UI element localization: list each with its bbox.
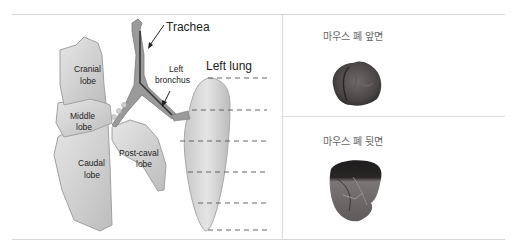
- caption-back: 마우스 폐 뒷면: [323, 133, 383, 148]
- caption-front: 마우스 폐 앞면: [323, 28, 383, 43]
- label-trachea: Trachea: [166, 20, 210, 34]
- label-left-bronchus-1: Left: [169, 64, 184, 74]
- label-caudal-2: lobe: [84, 170, 100, 180]
- photo-cell-front: 마우스 폐 앞면: [283, 15, 505, 116]
- label-middle-1: Middle: [70, 111, 95, 121]
- label-postcaval-1: Post-caval: [119, 148, 159, 158]
- label-middle-2: lobe: [76, 122, 92, 132]
- mouse-lung-back-photo: [323, 155, 387, 227]
- mouse-lung-front-photo: [323, 55, 387, 113]
- label-left-bronchus-2: bronchus: [155, 75, 190, 85]
- left-lung: [184, 78, 230, 231]
- comparison-table: Trachea Left lung Left bronchus Cranial …: [12, 14, 505, 240]
- lung-anatomy-diagram: Trachea Left lung Left bronchus Cranial …: [12, 15, 282, 239]
- label-caudal-1: Caudal: [78, 158, 105, 168]
- label-left-lung: Left lung: [206, 59, 252, 73]
- label-postcaval-2: lobe: [136, 159, 152, 169]
- photo-cell-back: 마우스 폐 뒷면: [283, 117, 505, 240]
- label-cranial-1: Cranial: [74, 64, 101, 74]
- label-cranial-2: lobe: [80, 76, 96, 86]
